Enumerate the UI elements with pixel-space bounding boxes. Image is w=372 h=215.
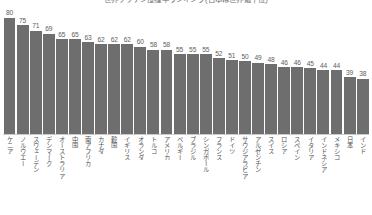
bar-item: 63: [82, 9, 94, 134]
bar-item: 52: [213, 9, 225, 134]
category-label-slot: ドイツ: [226, 136, 238, 213]
bar-rect: [161, 50, 173, 134]
category-label: スペイン: [294, 136, 301, 160]
bar-item: 51: [226, 9, 238, 134]
bar-rect: [357, 79, 369, 134]
bar-value-label: 39: [346, 69, 353, 76]
category-label: フランス: [215, 136, 222, 160]
category-label-slot: ノルウエー: [17, 136, 29, 213]
bar-value-label: 69: [45, 25, 52, 32]
bar-value-label: 65: [71, 31, 78, 38]
bar-value-label: 58: [163, 41, 170, 48]
bar-item: 55: [200, 9, 212, 134]
category-label: ベルギー: [176, 136, 183, 160]
bar-value-label: 50: [241, 53, 248, 60]
category-label-slot: トルコ: [147, 136, 159, 213]
bar-value-label: 55: [176, 46, 183, 53]
category-label: インドネシア: [320, 136, 327, 173]
category-label: ロシア: [280, 136, 287, 154]
category-label: イギリス: [124, 136, 131, 160]
bar-value-label: 75: [19, 17, 26, 24]
bar-value-label: 62: [124, 36, 131, 43]
category-label: メキシコ: [333, 136, 340, 160]
category-label: シンガポール: [202, 136, 209, 173]
bar-rect: [291, 67, 303, 134]
category-label: デンマーク: [45, 136, 52, 167]
bar-value-label: 62: [111, 36, 118, 43]
bar-value-label: 60: [137, 38, 144, 45]
bar-item: 60: [134, 9, 146, 134]
bar-rect: [304, 68, 316, 134]
bar-value-label: 55: [189, 46, 196, 53]
category-label-slot: スイス: [265, 136, 277, 213]
bar-rect: [30, 31, 42, 134]
bar-series: 8075716965656362626260585855555552515049…: [3, 9, 369, 134]
category-label-slot: サウジアラビア: [239, 136, 251, 213]
bar-item: 80: [4, 9, 16, 134]
category-label-slot: 韓国: [108, 136, 120, 213]
bar-item: 62: [95, 9, 107, 134]
bar-item: 62: [121, 9, 133, 134]
bar-item: 58: [147, 9, 159, 134]
bar-item: 38: [357, 9, 369, 134]
bar-rect: [265, 64, 277, 134]
bar-item: 46: [278, 9, 290, 134]
bar-item: 55: [174, 9, 186, 134]
axis-baseline: [3, 134, 369, 135]
bar-value-label: 51: [228, 52, 235, 59]
bar-item: 55: [187, 9, 199, 134]
category-label: オランダ: [137, 136, 144, 160]
category-label-slot: オランダ: [134, 136, 146, 213]
bar-rect: [82, 42, 94, 134]
category-label-slot: フランス: [213, 136, 225, 213]
bar-rect: [278, 67, 290, 134]
category-label: カナダ: [97, 136, 104, 154]
category-label: インド: [359, 136, 366, 154]
bar-rect: [317, 70, 329, 134]
category-label-slot: ロシア: [278, 136, 290, 213]
bar-item: 58: [161, 9, 173, 134]
bar-rect: [252, 63, 264, 134]
bar-value-label: 48: [268, 56, 275, 63]
category-label-slot: アメリカ: [161, 136, 173, 213]
bar-value-label: 63: [84, 34, 91, 41]
bar-value-label: 52: [215, 50, 222, 57]
bar-rect: [174, 54, 186, 134]
category-label-slot: スウェーデン: [30, 136, 42, 213]
bar-value-label: 55: [202, 46, 209, 53]
category-label: ノルウエー: [19, 136, 26, 167]
bar-rect: [43, 34, 55, 134]
category-label: 韓国: [110, 136, 117, 148]
category-label-slot: イタリア: [304, 136, 316, 213]
bar-item: 44: [317, 9, 329, 134]
bar-value-label: 65: [58, 31, 65, 38]
bar-item: 69: [43, 9, 55, 134]
bar-item: 45: [304, 9, 316, 134]
bar-rect: [95, 44, 107, 134]
category-label-slot: デンマーク: [43, 136, 55, 213]
category-label-slot: ブラジル: [187, 136, 199, 213]
category-label-slot: シンガポール: [200, 136, 212, 213]
category-label-slot: オーストラリア: [56, 136, 68, 213]
chart-title: 世界ワクチン接種率ランキング(日本は世界最下位): [0, 0, 372, 4]
bar-rect: [187, 54, 199, 134]
category-label-slot: 日本: [344, 136, 356, 213]
bar-item: 65: [56, 9, 68, 134]
bar-value-label: 38: [359, 70, 366, 77]
bar-item: 46: [291, 9, 303, 134]
category-label-slot: 中国: [69, 136, 81, 213]
category-axis-labels: ケニアノルウエースウェーデンデンマークオーストラリア中国南アフリカカナダ韓国イギ…: [3, 136, 369, 213]
category-label: 日本: [346, 136, 353, 148]
category-label-slot: ケニア: [4, 136, 16, 213]
category-label: アメリカ: [163, 136, 170, 160]
bar-item: 62: [108, 9, 120, 134]
bar-item: 48: [265, 9, 277, 134]
bar-rect: [239, 61, 251, 134]
bar-item: 44: [331, 9, 343, 134]
bar-value-label: 46: [281, 59, 288, 66]
category-label: スイス: [267, 136, 274, 154]
category-label-slot: アルゼンチン: [252, 136, 264, 213]
category-label: ブラジル: [189, 136, 196, 160]
bar-item: 75: [17, 9, 29, 134]
bar-item: 65: [69, 9, 81, 134]
